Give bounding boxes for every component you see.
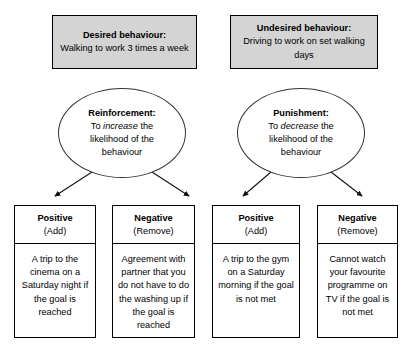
reinforcement-suffix: the [138, 121, 153, 131]
outcome-label: Negative [338, 212, 376, 225]
outcome-header: Negative (Remove) [113, 206, 194, 244]
reinforcement-ellipse: Reinforcement: To increase the likelihoo… [58, 88, 186, 178]
undesired-behaviour-box: Undesired behaviour: Driving to work on … [230, 15, 378, 69]
outcome-sublabel: (Remove) [337, 225, 377, 238]
outcome-example: A trip to the cinema on a Saturday night… [15, 244, 95, 337]
reinforcement-emphasis: increase [103, 121, 138, 131]
punishment-prefix: To [268, 121, 280, 131]
arrow-reinforcement-positive [55, 172, 92, 196]
outcome-example: A trip to the gym on a Saturday morning … [213, 244, 299, 337]
outcome-sublabel: (Add) [44, 225, 66, 238]
outcome-label: Positive [37, 212, 72, 225]
reinforcement-definition-line-2: likelihood of the [90, 133, 154, 146]
outcome-header: Positive (Add) [15, 206, 95, 244]
behaviour-diagram: Desired behaviour: Walking to work 3 tim… [0, 0, 411, 348]
outcome-box-reinforcement-positive: Positive (Add) A trip to the cinema on a… [14, 205, 96, 338]
outcome-header: Positive (Add) [213, 206, 299, 244]
outcome-box-punishment-negative: Negative (Remove) Cannot watch your favo… [317, 205, 398, 338]
outcome-label: Positive [238, 212, 273, 225]
punishment-definition-line-2: likelihood of the [269, 133, 333, 146]
arrow-punishment-negative [331, 172, 362, 196]
reinforcement-title: Reinforcement: [88, 107, 155, 120]
desired-behaviour-title: Desired behaviour: [83, 29, 166, 43]
punishment-title: Punishment: [273, 107, 329, 120]
outcome-box-reinforcement-negative: Negative (Remove) Agreement with partner… [112, 205, 195, 338]
arrow-punishment-positive [243, 172, 271, 196]
outcome-example: Cannot watch your favourite programme on… [318, 244, 397, 337]
punishment-emphasis: decrease [281, 121, 319, 131]
outcome-sublabel: (Remove) [133, 225, 173, 238]
desired-behaviour-box: Desired behaviour: Walking to work 3 tim… [52, 15, 197, 69]
punishment-definition-line-3: behaviour [281, 146, 321, 159]
outcome-box-punishment-positive: Positive (Add) A trip to the gym on a Sa… [212, 205, 300, 338]
outcome-sublabel: (Add) [245, 225, 267, 238]
punishment-definition-line-1: To decrease the [268, 120, 333, 133]
reinforcement-prefix: To [91, 121, 103, 131]
punishment-ellipse: Punishment: To decrease the likelihood o… [237, 88, 365, 178]
undesired-behaviour-description: Driving to work on set walking days [235, 35, 373, 62]
outcome-header: Negative (Remove) [318, 206, 397, 244]
outcome-label: Negative [134, 212, 172, 225]
reinforcement-definition-line-3: behaviour [102, 146, 142, 159]
punishment-suffix: the [318, 121, 333, 131]
outcome-example: Agreement with partner that you do not h… [113, 244, 194, 337]
undesired-behaviour-title: Undesired behaviour: [257, 22, 351, 36]
reinforcement-definition-line-1: To increase the [91, 120, 153, 133]
desired-behaviour-description: Walking to work 3 times a week [60, 42, 188, 56]
arrow-reinforcement-negative [152, 172, 189, 196]
